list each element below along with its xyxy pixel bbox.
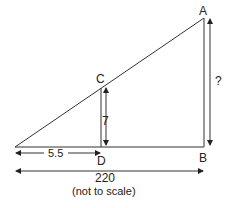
label-question: ?	[215, 74, 222, 88]
label-d: D	[97, 154, 106, 168]
label-5-5: 5.5	[48, 147, 63, 159]
similar-triangles-diagram: A B C D 7 ? 5.5 220 (not to scale)	[0, 0, 231, 208]
note-not-to-scale: (not to scale)	[72, 185, 136, 197]
hypotenuse	[15, 18, 204, 147]
label-b: B	[199, 151, 207, 165]
label-7: 7	[102, 114, 109, 128]
label-a: A	[199, 4, 207, 18]
label-c: C	[96, 72, 105, 86]
label-220: 220	[95, 171, 115, 185]
